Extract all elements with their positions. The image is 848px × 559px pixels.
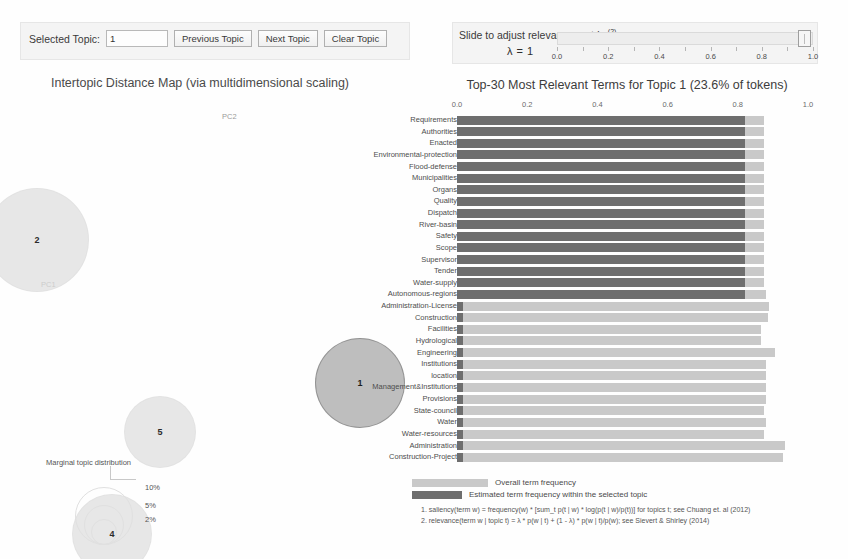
- term-bar-row[interactable]: Autonomous-regions: [0, 289, 848, 301]
- term-label[interactable]: Hydrological: [416, 336, 457, 345]
- relevance-slider-track[interactable]: [557, 32, 813, 45]
- term-label[interactable]: Safety: [436, 231, 457, 240]
- selected-topic-input[interactable]: [106, 30, 168, 47]
- x-axis-tick-label: 0.2: [522, 100, 532, 109]
- bar-overall-frequency: [457, 371, 766, 380]
- term-label[interactable]: Municipalities: [412, 173, 457, 182]
- term-label[interactable]: Autonomous-regions: [388, 289, 457, 298]
- legend-label-within-topic: Estimated term frequency within the sele…: [469, 490, 647, 499]
- legend-swatch-within-topic: [412, 491, 462, 499]
- bar-within-topic-frequency: [457, 243, 745, 252]
- selected-topic-label: Selected Topic:: [29, 33, 100, 45]
- term-bar-row[interactable]: Requirements: [0, 115, 848, 127]
- slider-tick-label: 0.6: [705, 52, 715, 61]
- term-label[interactable]: Organs: [432, 185, 457, 194]
- bar-within-topic-frequency: [457, 139, 745, 148]
- term-bar-row[interactable]: Management&Institutions: [0, 382, 848, 394]
- term-label[interactable]: State-council: [414, 406, 457, 415]
- term-label[interactable]: Tender: [434, 266, 457, 275]
- slider-tick-mark: [813, 47, 814, 51]
- term-bar-row[interactable]: Dispatch: [0, 208, 848, 220]
- footnote-relevance: 2. relevance(term w | topic t) = λ * p(w…: [421, 517, 709, 524]
- bar-within-topic-frequency: [457, 116, 745, 125]
- term-bar-row[interactable]: River-basin: [0, 220, 848, 232]
- bar-within-topic-frequency: [457, 325, 463, 334]
- term-label[interactable]: Institutions: [421, 359, 457, 368]
- term-bar-row[interactable]: Flood-defense: [0, 162, 848, 174]
- term-bar-row[interactable]: Hydrological: [0, 336, 848, 348]
- term-bar-row[interactable]: Environmental-protection: [0, 150, 848, 162]
- slider-tick-mark: [634, 47, 635, 51]
- term-bar-row[interactable]: Water-supply: [0, 278, 848, 290]
- bar-overall-frequency: [457, 406, 764, 415]
- legend-item-overall: Overall term frequency: [412, 478, 842, 487]
- term-label[interactable]: Dispatch: [428, 208, 457, 217]
- term-bar-row[interactable]: location: [0, 371, 848, 383]
- next-topic-button[interactable]: Next Topic: [258, 30, 318, 47]
- slider-tick-mark: [608, 47, 609, 51]
- term-label[interactable]: Scope: [436, 243, 457, 252]
- term-bar-row[interactable]: Safety: [0, 231, 848, 243]
- bar-overall-frequency: [457, 162, 764, 171]
- bar-within-topic-frequency: [457, 174, 745, 183]
- term-bar-row[interactable]: Water-resources: [0, 429, 848, 441]
- bar-overall-frequency: [457, 430, 764, 439]
- term-label[interactable]: Supervisor: [421, 255, 457, 264]
- term-bar-row[interactable]: Administration-License: [0, 301, 848, 313]
- size-legend-label: 2%: [145, 515, 156, 524]
- term-label[interactable]: River-basin: [419, 220, 457, 229]
- term-label[interactable]: Flood-defense: [409, 162, 457, 171]
- term-bar-row[interactable]: Supervisor: [0, 255, 848, 267]
- bar-chart-title: Top-30 Most Relevant Terms for Topic 1 (…: [412, 78, 842, 92]
- relevance-slider-handle[interactable]: [798, 30, 811, 47]
- term-label[interactable]: Water-resources: [402, 429, 457, 438]
- bar-overall-frequency: [457, 232, 764, 241]
- slider-tick-label: 1.0: [808, 52, 818, 61]
- term-label[interactable]: Engineering: [417, 348, 457, 357]
- term-label[interactable]: Construction-Project: [389, 452, 457, 461]
- term-label[interactable]: Enacted: [429, 138, 457, 147]
- term-label[interactable]: Management&Institutions: [372, 382, 457, 391]
- term-label[interactable]: Provisions: [422, 394, 457, 403]
- term-bar-row[interactable]: Municipalities: [0, 173, 848, 185]
- relevance-slider-panel: Slide to adjust relevance metric:(2) λ =…: [452, 22, 818, 64]
- term-bar-row[interactable]: Water: [0, 417, 848, 429]
- term-bar-row[interactable]: Administration: [0, 441, 848, 453]
- term-bar-row[interactable]: Construction: [0, 313, 848, 325]
- footnote-saliency: 1. saliency(term w) = frequency(w) * [su…: [421, 506, 750, 513]
- bar-overall-frequency: [457, 278, 764, 287]
- bar-overall-frequency: [457, 302, 769, 311]
- bar-within-topic-frequency: [457, 267, 745, 276]
- term-bar-row[interactable]: Institutions: [0, 359, 848, 371]
- term-bar-row[interactable]: Provisions: [0, 394, 848, 406]
- term-label[interactable]: Water-supply: [413, 278, 457, 287]
- term-label[interactable]: Facilities: [428, 324, 457, 333]
- term-bar-row[interactable]: State-council: [0, 406, 848, 418]
- size-legend-label: 5%: [145, 501, 156, 510]
- x-axis-tick-label: 0.0: [452, 100, 462, 109]
- term-bar-row[interactable]: Quality: [0, 196, 848, 208]
- term-bar-row[interactable]: Authorities: [0, 127, 848, 139]
- x-axis-tick-label: 0.6: [662, 100, 672, 109]
- term-label[interactable]: location: [431, 371, 457, 380]
- term-label[interactable]: Administration: [409, 441, 457, 450]
- term-label[interactable]: Water: [437, 417, 457, 426]
- bar-overall-frequency: [457, 313, 768, 322]
- term-bar-row[interactable]: Scope: [0, 243, 848, 255]
- term-label[interactable]: Administration-License: [381, 301, 457, 310]
- bar-overall-frequency: [457, 127, 764, 136]
- term-label[interactable]: Authorities: [422, 127, 457, 136]
- term-bar-row[interactable]: Construction-Project: [0, 452, 848, 464]
- term-label[interactable]: Quality: [434, 196, 457, 205]
- term-bar-row[interactable]: Engineering: [0, 348, 848, 360]
- term-bar-row[interactable]: Facilities: [0, 324, 848, 336]
- term-bar-row[interactable]: Enacted: [0, 138, 848, 150]
- bar-overall-frequency: [457, 116, 764, 125]
- previous-topic-button[interactable]: Previous Topic: [174, 30, 252, 47]
- term-bar-row[interactable]: Organs: [0, 185, 848, 197]
- term-label[interactable]: Construction: [415, 313, 457, 322]
- clear-topic-button[interactable]: Clear Topic: [324, 30, 387, 47]
- term-bar-row[interactable]: Tender: [0, 266, 848, 278]
- term-label[interactable]: Environmental-protection: [374, 150, 457, 159]
- term-label[interactable]: Requirements: [410, 115, 457, 124]
